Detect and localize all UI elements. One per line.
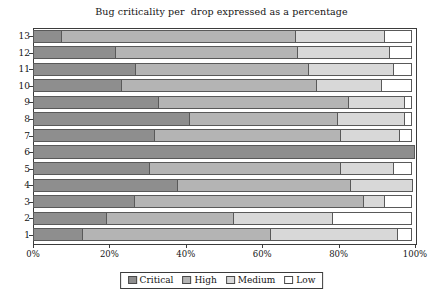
y-tick-label-3: 3 xyxy=(4,197,30,207)
chart-root: Bug criticality per drop expressed as a … xyxy=(0,0,443,301)
bar-row xyxy=(33,63,415,76)
y-tick-label-4: 4 xyxy=(4,180,30,190)
bar-segment-medium xyxy=(340,129,399,142)
x-tick-label-0: 0% xyxy=(26,249,40,259)
bar-segment-low xyxy=(384,195,412,208)
bar-row xyxy=(33,195,415,208)
bar-segment-low xyxy=(393,63,412,76)
x-tick-label-20: 20% xyxy=(100,249,119,259)
legend-item-critical[interactable]: Critical xyxy=(128,275,174,285)
bar-segment-high xyxy=(158,96,349,109)
bar-row xyxy=(33,112,415,125)
bar-row xyxy=(33,79,415,92)
legend-label-low: Low xyxy=(296,275,315,285)
bar-segment-medium xyxy=(297,46,390,59)
bar-segment-critical xyxy=(33,46,116,59)
legend: CriticalHighMediumLow xyxy=(120,272,324,289)
legend-item-low[interactable]: Low xyxy=(284,275,315,285)
x-tick-label-80: 80% xyxy=(329,249,348,259)
legend-swatch-icon-high xyxy=(182,276,191,284)
bar-segment-critical xyxy=(33,112,190,125)
bar-row xyxy=(33,129,415,142)
bar-segment-low xyxy=(381,79,412,92)
bar-row xyxy=(33,162,415,175)
bar-segment-critical xyxy=(33,63,136,76)
x-tick-mark-100 xyxy=(415,244,416,248)
y-tick-label-11: 11 xyxy=(4,64,30,74)
bar-segment-high xyxy=(154,129,341,142)
y-tick-label-2: 2 xyxy=(4,213,30,223)
y-tick-label-1: 1 xyxy=(4,230,30,240)
bar-segment-high xyxy=(82,228,271,241)
y-axis-labels: 13121110987654321 xyxy=(0,28,30,243)
bar-segment-medium xyxy=(316,79,383,92)
bar-segment-high xyxy=(177,179,351,192)
bar-segment-medium xyxy=(337,112,406,125)
bar-segment-medium xyxy=(308,63,394,76)
chart-title: Bug criticality per drop expressed as a … xyxy=(0,6,443,17)
bar-segment-critical xyxy=(33,129,155,142)
bar-segment-high xyxy=(135,63,309,76)
bar-row xyxy=(33,212,415,225)
x-tick-label-100: 100% xyxy=(403,249,427,259)
y-tick-label-7: 7 xyxy=(4,131,30,141)
bar-segment-high xyxy=(149,162,342,175)
y-tick-label-6: 6 xyxy=(4,147,30,157)
bar-segment-high xyxy=(134,195,364,208)
bar-segment-critical xyxy=(33,79,122,92)
bar-segment-low xyxy=(389,46,412,59)
bar-row xyxy=(33,179,415,192)
y-tick-label-8: 8 xyxy=(4,114,30,124)
bar-segment-critical xyxy=(33,228,83,241)
y-tick-label-10: 10 xyxy=(4,81,30,91)
bar-segment-medium xyxy=(363,195,385,208)
bar-segment-low xyxy=(399,129,412,142)
bar-segment-high xyxy=(115,46,298,59)
bar-segment-low xyxy=(404,112,412,125)
bar-segment-medium xyxy=(270,228,398,241)
bar-segment-critical xyxy=(33,179,178,192)
bar-segment-critical xyxy=(33,212,107,225)
x-tick-mark-20 xyxy=(109,244,110,248)
bar-segment-high xyxy=(189,112,338,125)
bar-segment-high xyxy=(106,212,234,225)
legend-swatch-icon-low xyxy=(284,276,293,284)
bar-segment-high xyxy=(121,79,317,92)
bar-segment-medium xyxy=(350,179,413,192)
x-tick-mark-80 xyxy=(339,244,340,248)
x-axis-ticks: 0%20%40%60%80%100% xyxy=(33,244,415,266)
bar-segment-medium xyxy=(233,212,332,225)
legend-item-high[interactable]: High xyxy=(182,275,216,285)
bar-segment-low xyxy=(384,30,412,43)
bar-row xyxy=(33,46,415,59)
bar-segment-critical xyxy=(33,195,135,208)
legend-label-high: High xyxy=(194,275,216,285)
bar-segment-critical xyxy=(33,30,62,43)
x-tick-mark-40 xyxy=(186,244,187,248)
legend-label-medium: Medium xyxy=(238,275,276,285)
bar-segment-medium xyxy=(348,96,405,109)
bar-segment-medium xyxy=(295,30,385,43)
bar-segment-critical xyxy=(33,145,415,158)
legend-label-critical: Critical xyxy=(140,275,174,285)
bar-row xyxy=(33,145,415,158)
legend-swatch-icon-critical xyxy=(128,276,137,284)
bar-segment-low xyxy=(332,212,412,225)
x-tick-label-60: 60% xyxy=(253,249,272,259)
bar-segment-critical xyxy=(33,96,159,109)
bar-segment-critical xyxy=(33,162,150,175)
x-tick-mark-60 xyxy=(262,244,263,248)
bar-segment-medium xyxy=(340,162,393,175)
bar-row xyxy=(33,30,415,43)
y-tick-label-9: 9 xyxy=(4,97,30,107)
legend-item-medium[interactable]: Medium xyxy=(226,275,276,285)
y-tick-label-13: 13 xyxy=(4,31,30,41)
legend-swatch-icon-medium xyxy=(226,276,235,284)
bar-row xyxy=(33,228,415,241)
bars-container xyxy=(33,28,415,243)
bar-segment-low xyxy=(393,162,412,175)
bar-segment-high xyxy=(61,30,296,43)
bar-row xyxy=(33,96,415,109)
bar-segment-low xyxy=(404,96,412,109)
x-tick-mark-0 xyxy=(33,244,34,248)
